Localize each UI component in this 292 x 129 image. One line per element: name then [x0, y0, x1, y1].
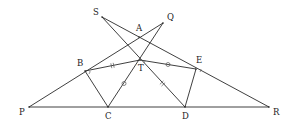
point-dot-icon	[195, 68, 197, 70]
point-label-p: P	[19, 107, 25, 117]
tick-mark-icon	[111, 63, 112, 68]
point-label-c: C	[105, 111, 112, 121]
point-dot-icon	[162, 22, 164, 24]
point-label-s: S	[93, 7, 99, 17]
point-dot-icon	[184, 106, 186, 108]
point-label-q: Q	[167, 12, 174, 22]
point-dot-icon	[84, 70, 86, 72]
point-dot-icon	[268, 106, 270, 108]
point-label-d: D	[182, 111, 189, 121]
point-dot-icon	[107, 106, 109, 108]
segment-bt	[85, 60, 140, 71]
tick-mark-icon	[113, 63, 114, 68]
point-label-r: R	[273, 107, 280, 117]
point-label-b: B	[77, 58, 83, 68]
point-labels: SQABTEPCDR	[19, 7, 280, 121]
segment-ed	[185, 69, 196, 107]
point-dot-icon	[139, 59, 141, 61]
point-label-a: A	[135, 23, 143, 33]
segment-sd	[102, 17, 185, 107]
segments	[29, 17, 269, 107]
point-label-e: E	[196, 55, 202, 65]
point-dot-icon	[101, 16, 103, 18]
segment-bc	[85, 71, 108, 107]
segment-sr	[102, 17, 269, 107]
point-label-t: T	[138, 63, 144, 73]
geometry-diagram: SQABTEPCDR	[0, 0, 292, 129]
point-dot-icon	[138, 36, 140, 38]
point-dot-icon	[28, 106, 30, 108]
